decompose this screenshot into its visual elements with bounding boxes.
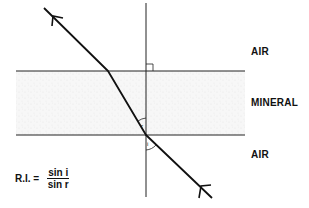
formula-numerator: sin i xyxy=(47,167,69,179)
formula-fraction: sin i sin r xyxy=(47,167,69,190)
formula-lhs: R.I. = xyxy=(15,173,39,184)
right-angle-icon xyxy=(146,64,153,71)
formula-denominator: sin r xyxy=(48,179,69,190)
label-air-top: AIR xyxy=(251,46,269,57)
angle-r-label: r xyxy=(141,123,143,129)
refraction-diagram: r i AIR MINERAL AIR R.I. = sin i sin r xyxy=(0,0,309,208)
angle-i-label: i xyxy=(147,141,148,147)
label-mineral: MINERAL xyxy=(251,97,298,108)
label-air-bottom: AIR xyxy=(251,149,269,160)
mineral-layer xyxy=(16,71,245,135)
refractive-index-formula: R.I. = sin i sin r xyxy=(15,167,69,190)
